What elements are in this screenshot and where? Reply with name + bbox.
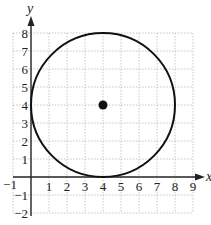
x-tick: 8 <box>172 179 179 194</box>
x-axis-label: x <box>205 169 211 184</box>
x-tick: 4 <box>100 179 107 194</box>
y-tick: 2 <box>22 134 29 149</box>
x-tick: 1 <box>46 179 53 194</box>
y-tick: 8 <box>22 26 29 41</box>
y-tick: −1 <box>14 188 28 203</box>
x-tick: 9 <box>190 179 197 194</box>
y-tick: −2 <box>14 206 28 221</box>
y-tick: 6 <box>22 62 29 77</box>
y-tick: 1 <box>22 152 29 167</box>
x-tick: 6 <box>136 179 143 194</box>
y-tick-labels: 8 7 6 5 4 3 2 1 −1 −2 <box>14 26 28 221</box>
center-point <box>99 101 108 110</box>
y-tick: 5 <box>22 80 29 95</box>
y-tick: 3 <box>22 116 29 131</box>
y-axis-label: y <box>25 1 34 16</box>
x-tick: 7 <box>154 179 161 194</box>
x-axis-arrow-icon <box>195 174 205 181</box>
x-tick: 5 <box>118 179 125 194</box>
y-tick: 7 <box>22 44 29 59</box>
y-tick: 4 <box>22 98 29 113</box>
x-tick-labels: −1 1 2 3 4 5 6 7 8 9 <box>3 177 196 194</box>
y-axis-arrow-icon <box>28 16 35 26</box>
x-tick: 2 <box>64 179 71 194</box>
x-tick: 3 <box>82 179 89 194</box>
coordinate-plane: x y −1 1 2 3 4 5 6 7 8 9 8 7 6 5 4 3 2 1… <box>0 0 211 225</box>
